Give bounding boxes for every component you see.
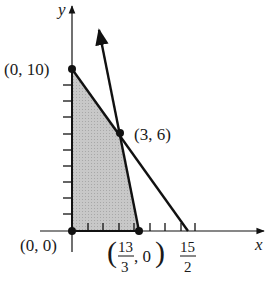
svg-text:, 0: , 0: [134, 247, 151, 266]
vertex-label-0-10: (0, 10): [4, 60, 49, 79]
x-axis-label: x: [254, 235, 263, 254]
vertex-13-3-0: [135, 227, 143, 235]
svg-text:): ): [155, 235, 165, 269]
svg-text:15: 15: [180, 239, 195, 255]
svg-text:(: (: [107, 235, 117, 269]
y-axis-label: y: [56, 0, 66, 19]
vertex-0-10: [68, 65, 76, 73]
vertex-3-6: [116, 129, 124, 137]
vertex-0-0: [68, 227, 76, 235]
vertex-label-13-3-0: ( 13 3 , 0 ): [107, 235, 165, 275]
svg-text:2: 2: [184, 259, 192, 275]
x-intercept-label-15-2: 15 2: [180, 239, 196, 275]
feasible-region-diagram: y x (0, 10) (3, 6) (0, 0) ( 13 3 , 0 ) 1…: [0, 0, 267, 288]
vertex-label-3-6: (3, 6): [134, 125, 171, 144]
svg-text:3: 3: [121, 259, 129, 275]
y-axis-ticks: [63, 85, 72, 214]
vertex-label-0-0: (0, 0): [20, 236, 57, 255]
svg-text:13: 13: [118, 239, 133, 255]
